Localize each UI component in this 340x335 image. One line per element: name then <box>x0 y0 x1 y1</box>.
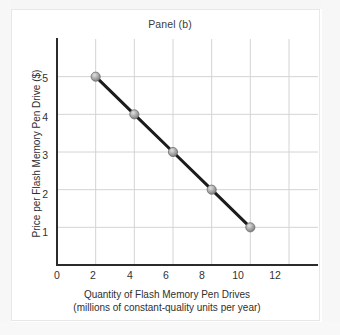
y-tick-label: 1 <box>34 226 48 238</box>
x-tick-label: 4 <box>116 269 144 281</box>
x-tick-label: 12 <box>261 269 289 281</box>
chart-figure: Panel (b) Price per Flash Memory Pen Dri… <box>0 0 340 335</box>
x-tick-label: 6 <box>152 269 180 281</box>
x-tick-label: 10 <box>224 269 252 281</box>
data-point-marker <box>91 72 100 81</box>
x-tick-label: 8 <box>188 269 216 281</box>
y-tick-label: 4 <box>34 111 48 123</box>
plot-area <box>0 0 340 335</box>
data-point-marker <box>246 223 255 232</box>
x-tick-label: 0 <box>43 269 71 281</box>
x-tick-label: 2 <box>79 269 107 281</box>
data-point-marker <box>130 110 139 119</box>
x-axis-title-line2: (millions of constant-quality units per … <box>14 301 320 314</box>
y-tick-label: 3 <box>34 149 48 161</box>
data-point-marker <box>207 185 216 194</box>
y-tick-label: 2 <box>34 188 48 200</box>
x-axis-title: Quantity of Flash Memory Pen Drives (mil… <box>14 288 320 314</box>
y-tick-label: 5 <box>34 72 48 84</box>
x-axis-title-line1: Quantity of Flash Memory Pen Drives <box>14 288 320 301</box>
data-point-marker <box>168 147 177 156</box>
